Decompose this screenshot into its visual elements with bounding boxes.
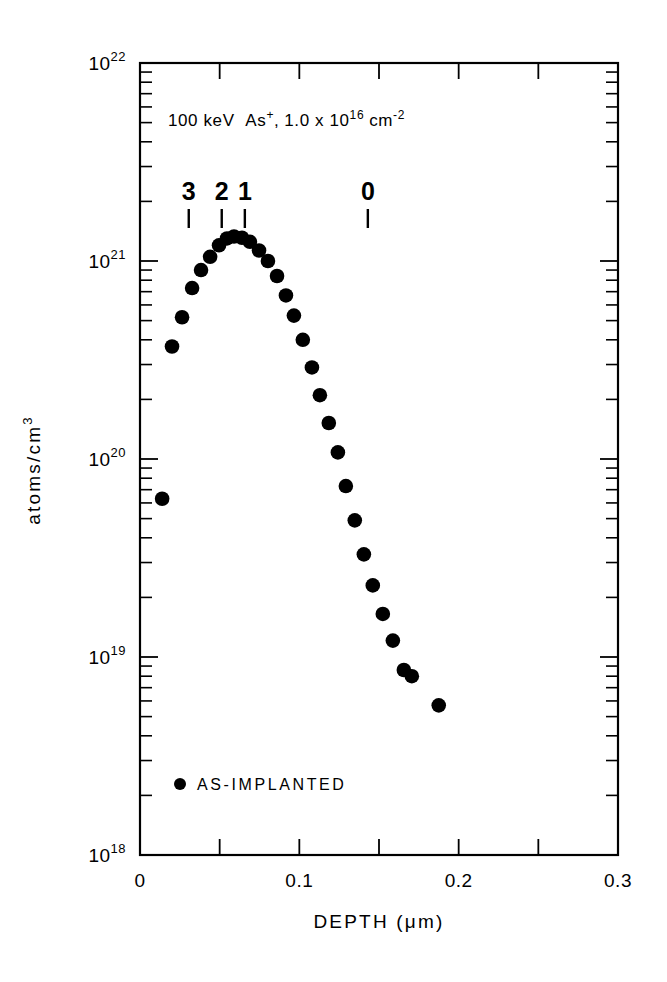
- depth-marker-label: 0: [361, 177, 375, 205]
- annot-dose-mantissa: 1.0 x 10: [284, 111, 349, 130]
- data-series-as-implanted[interactable]: [155, 229, 446, 712]
- y-tick-label-base: 10: [88, 251, 110, 272]
- y-tick-label: 1018: [88, 841, 126, 866]
- x-axis-title-post: m): [418, 911, 445, 932]
- y-tick-label: 1021: [88, 247, 126, 272]
- plot-frame: [140, 63, 618, 855]
- data-point[interactable]: [165, 339, 180, 354]
- y-axis-title-base: atoms/cm: [23, 425, 44, 525]
- x-axis-title: DEPTH (μm): [313, 911, 444, 932]
- data-point[interactable]: [313, 388, 328, 403]
- svg-text:atoms/cm3: atoms/cm3: [20, 415, 44, 524]
- x-axis-title-pre: DEPTH (: [313, 911, 404, 932]
- legend-marker-icon: [174, 778, 186, 790]
- annot-dose-unit: cm: [369, 111, 393, 130]
- annot-comma: ,: [274, 111, 279, 130]
- y-tick-label-base: 10: [88, 845, 110, 866]
- y-tick-label-exponent: 21: [111, 247, 126, 262]
- data-point[interactable]: [270, 269, 285, 284]
- data-point[interactable]: [357, 547, 372, 562]
- x-axis-title-mu: μ: [405, 911, 418, 932]
- annot-energy: 100 keV: [168, 111, 235, 130]
- data-point[interactable]: [261, 254, 276, 269]
- data-point[interactable]: [194, 263, 209, 278]
- y-tick-label: 1020: [88, 445, 126, 470]
- y-tick-label: 1022: [88, 49, 126, 74]
- y-tick-label-exponent: 20: [111, 445, 126, 460]
- annot-species-charge: +: [266, 108, 274, 122]
- data-point[interactable]: [296, 332, 311, 347]
- depth-marker-label: 1: [238, 177, 252, 205]
- legend-label-as-implanted: AS-IMPLANTED: [197, 776, 346, 793]
- svg-text:DEPTH (μm): DEPTH (μm): [313, 911, 444, 932]
- data-point[interactable]: [279, 288, 294, 303]
- data-point[interactable]: [322, 416, 337, 431]
- x-tick-label: 0: [134, 870, 145, 891]
- implant-condition-annotation: 100 keVAs+,1.0 x 1016cm-2: [168, 108, 405, 130]
- data-point[interactable]: [305, 360, 320, 375]
- y-axis-title: atoms/cm3: [20, 415, 44, 524]
- data-point[interactable]: [287, 308, 302, 323]
- data-point[interactable]: [155, 491, 170, 506]
- y-tick-label: 1019: [88, 643, 126, 668]
- depth-marker-label: 2: [215, 177, 229, 205]
- data-point[interactable]: [185, 281, 200, 296]
- y-tick-label-base: 10: [88, 53, 110, 74]
- y-axis-title-exponent: 3: [20, 415, 35, 424]
- depth-markers: 3210: [182, 177, 375, 228]
- depth-profile-chart: 10181019102010211022 00.10.20.3 3210 DEP…: [0, 0, 667, 982]
- data-point[interactable]: [331, 445, 346, 460]
- data-point[interactable]: [203, 250, 218, 265]
- x-tick-label: 0.2: [445, 870, 473, 891]
- y-tick-label-exponent: 18: [111, 841, 126, 856]
- y-tick-label-base: 10: [88, 449, 110, 470]
- data-point[interactable]: [386, 633, 401, 648]
- y-axis-tick-labels: 10181019102010211022: [88, 49, 126, 866]
- x-tick-label: 0.3: [604, 870, 632, 891]
- figure-root: 10181019102010211022 00.10.20.3 3210 DEP…: [0, 0, 667, 982]
- data-point[interactable]: [175, 310, 190, 325]
- legend: AS-IMPLANTED: [174, 776, 346, 793]
- y-tick-label-base: 10: [88, 647, 110, 668]
- y-axis-minor-ticks: [140, 72, 618, 795]
- x-axis-ticks: [220, 63, 539, 855]
- annot-dose-unit-exponent: -2: [393, 108, 405, 122]
- annot-dose-exponent: 16: [350, 108, 365, 122]
- data-point[interactable]: [339, 479, 354, 494]
- data-point[interactable]: [376, 607, 391, 622]
- data-point[interactable]: [347, 513, 362, 528]
- y-tick-label-exponent: 22: [111, 49, 126, 64]
- x-axis-tick-labels: 00.10.20.3: [134, 870, 632, 891]
- y-tick-label-exponent: 19: [111, 643, 126, 658]
- y-axis-ticks: [140, 63, 618, 855]
- data-point[interactable]: [431, 698, 446, 713]
- annot-species: As: [245, 111, 266, 130]
- data-point[interactable]: [405, 669, 420, 684]
- axes-border: [140, 63, 618, 855]
- depth-marker-label: 3: [182, 177, 196, 205]
- data-point[interactable]: [365, 578, 380, 593]
- x-tick-label: 0.1: [285, 870, 313, 891]
- svg-text:100 keVAs+,1.0 x 1016cm-2: 100 keVAs+,1.0 x 1016cm-2: [168, 108, 405, 130]
